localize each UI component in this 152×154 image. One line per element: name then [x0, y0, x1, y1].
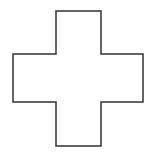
cross-shape [13, 11, 143, 146]
cross-diagram [0, 0, 152, 154]
